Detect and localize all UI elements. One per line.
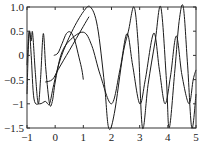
y-tick-label: −1 <box>12 98 24 110</box>
plot-frame <box>27 7 196 128</box>
x-tick-label: 0 <box>52 131 58 143</box>
curve-a-line <box>27 31 196 106</box>
x-axis-ticks: −1012345 <box>21 7 199 143</box>
y-axis-ticks: 1.00.50−0.5−1−1.5 <box>4 1 196 134</box>
plot-lines <box>27 5 196 130</box>
y-tick-label: 0.5 <box>10 25 24 37</box>
x-tick-label: 4 <box>165 131 171 143</box>
line-chart: −1012345 1.00.50−0.5−1−1.5 <box>0 0 201 153</box>
y-tick-label: 0 <box>19 49 25 61</box>
x-tick-label: 5 <box>193 131 199 143</box>
x-tick-label: 3 <box>137 131 143 143</box>
x-tick-label: 2 <box>109 131 115 143</box>
y-tick-label: −0.5 <box>4 74 24 86</box>
y-tick-label: −1.5 <box>4 122 24 134</box>
curve-b-line <box>27 5 196 130</box>
y-tick-label: 1.0 <box>10 1 24 13</box>
x-tick-label: 1 <box>81 131 87 143</box>
